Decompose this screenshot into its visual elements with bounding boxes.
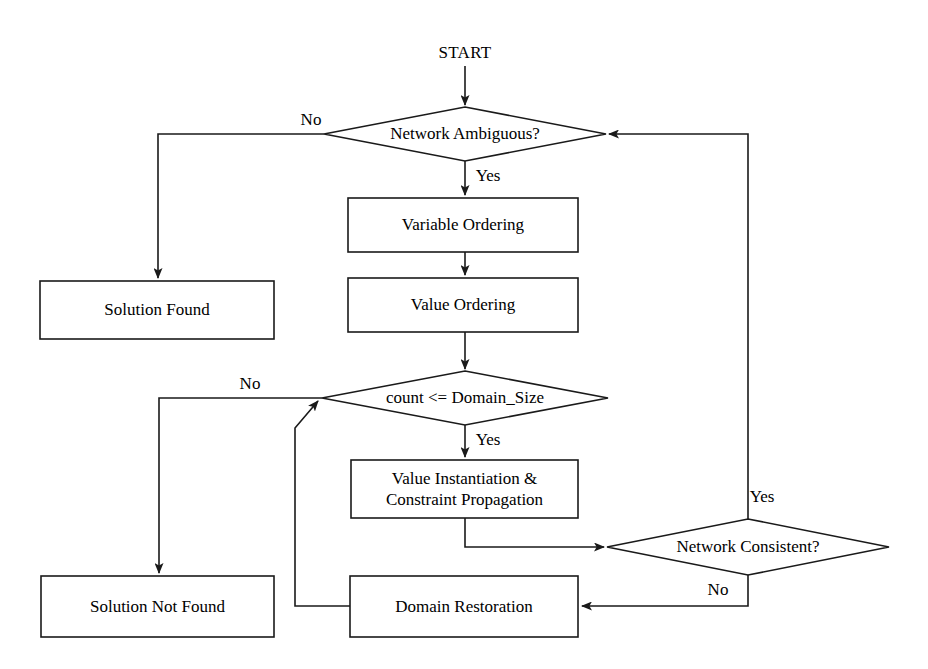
edge-ambiguous-no-to-solution-found	[158, 134, 324, 278]
edge-label-ambiguous-yes-to-variable-ordering: Yes	[476, 166, 501, 186]
node-value-ordering	[348, 278, 578, 332]
start-terminal-label: START	[439, 43, 492, 63]
node-domain-restoration	[350, 576, 578, 637]
edge-domain-restoration-to-count	[295, 401, 350, 606]
edge-network-consistent-yes-to-ambiguous	[609, 134, 748, 519]
edge-label-count-no-to-solution-not-found: No	[240, 374, 261, 394]
edge-label-ambiguous-no-to-solution-found: No	[301, 110, 322, 130]
edge-label-network-consistent-no-to-domain-restoration: No	[708, 580, 729, 600]
node-count-domain-size	[322, 371, 608, 425]
node-network-ambiguous	[324, 107, 606, 161]
edge-label-count-yes-to-value-instantiation: Yes	[476, 430, 501, 450]
node-network-consistent	[607, 519, 889, 575]
node-value-instantiation	[351, 460, 578, 518]
node-variable-ordering	[348, 198, 578, 252]
edge-value-instantiation-to-network-consistent	[465, 518, 604, 547]
node-solution-found	[40, 281, 274, 339]
node-solution-not-found	[41, 576, 274, 637]
flowchart-canvas: NoYesNoYesYesNoNetwork Ambiguous?Variabl…	[0, 0, 928, 669]
edge-label-network-consistent-yes-to-ambiguous: Yes	[750, 487, 775, 507]
flowchart-svg	[0, 0, 928, 669]
